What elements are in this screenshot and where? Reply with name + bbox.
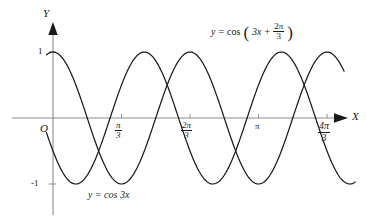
y-tick-label-one: 1	[38, 47, 43, 56]
equation-lhs: y	[211, 27, 215, 37]
equation-lhs: y	[88, 190, 92, 200]
fraction-pi-over-3: π 3	[115, 121, 122, 141]
fraction-numerator: 4π	[318, 121, 330, 132]
equation-equals: =	[95, 190, 101, 200]
fraction-denominator: 3	[273, 31, 284, 41]
equation-argument-term: 3x	[252, 27, 261, 37]
fraction-denominator: 3	[115, 130, 122, 140]
y-axis-arrowhead	[48, 22, 57, 35]
x-axis-label: X	[352, 111, 359, 122]
equation-function: cos 3x	[104, 190, 129, 200]
fraction-2pi-over-3-equation: 2π 3	[273, 22, 284, 42]
fraction-denominator: 3	[318, 132, 330, 144]
x-tick-label-pi-over-3: π 3	[115, 121, 122, 141]
equation-function: cos	[227, 27, 240, 37]
fraction-2pi-over-3: 2π 3	[181, 121, 192, 141]
equation-open-paren: (	[243, 26, 249, 40]
fraction-4pi-over-3: 4π 3	[318, 121, 330, 143]
trigonometric-graph-figure: Y X O 1 -1 π 3 2π 3 π 4π 3 y = cos ( 3x …	[0, 0, 366, 223]
y-axis-label: Y	[43, 8, 49, 19]
fraction-denominator: 3	[181, 130, 192, 140]
fraction-numerator: 2π	[273, 22, 284, 31]
equation-equals: =	[218, 27, 224, 37]
equation-close-paren: )	[287, 26, 293, 40]
equation-label-base-cosine: y = cos 3x	[88, 190, 129, 200]
equation-label-shifted-cosine: y = cos ( 3x + 2π 3 )	[211, 22, 293, 42]
x-tick-label-4pi-over-3: 4π 3	[318, 121, 330, 143]
fraction-numerator: 2π	[181, 121, 192, 130]
x-tick-label-2pi-over-3: 2π 3	[181, 121, 192, 141]
equation-plus: +	[265, 27, 271, 37]
origin-label: O	[40, 123, 48, 134]
y-tick-label-minus-one: -1	[31, 179, 39, 188]
plot-canvas	[0, 0, 366, 223]
x-tick-label-pi: π	[255, 122, 260, 131]
x-axis-arrowhead	[334, 113, 348, 123]
fraction-numerator: π	[115, 121, 122, 130]
